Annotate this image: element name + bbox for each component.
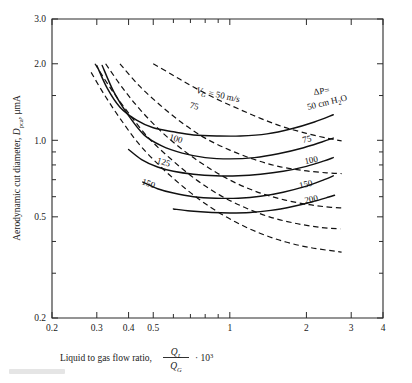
- pressure-drop-curves: [97, 65, 335, 212]
- x-axis-label-multiplier: · 103: [195, 352, 213, 364]
- x-tick-label: 0.4: [123, 323, 135, 333]
- gas-velocity-legend-title: VG = 50 m/s: [195, 85, 241, 106]
- x-axis-label-prefix: Liquid to gas flow ratio,: [60, 353, 152, 363]
- x-axis-label-denominator: QG: [170, 361, 182, 373]
- plot-frame: [52, 19, 383, 318]
- x-tick-label: 0.3: [91, 323, 103, 333]
- x-tick-label: 0.2: [46, 323, 58, 333]
- x-axis-label: Liquid to gas flow ratio, QL QG · 103: [60, 347, 213, 373]
- y-axis-label-prefix: Aerodynamic cut diameter,: [12, 138, 22, 241]
- dp-unit-tail: O: [339, 92, 348, 103]
- svg-text:Aerodynamic cut diameter, Dpca: Aerodynamic cut diameter, Dpca, μmA: [12, 95, 24, 241]
- chart-svg: 0.20.30.40.512343.02.01.00.50.2 75100125…: [0, 0, 412, 383]
- axis-ticks: [52, 19, 383, 318]
- dp-unit: 50 cm H: [306, 95, 339, 112]
- x-axis-label-numerator: QL: [171, 347, 182, 359]
- y-tick-label: 3.0: [34, 14, 46, 24]
- x-tick-label: 4: [381, 323, 386, 333]
- y-tick-label: 0.5: [34, 212, 46, 222]
- x-tick-label: 1: [227, 323, 232, 333]
- x-tick-label: 0.5: [147, 323, 159, 333]
- pressure-drop-label-100: 100: [304, 154, 320, 167]
- svg-text:50 cm H2O: 50 cm H2O: [306, 92, 349, 113]
- x-tick-label: 3: [349, 323, 354, 333]
- vg-value: = 50 m/s: [208, 88, 241, 104]
- pressure-drop-legend-title: ΔP= 50 cm H2O: [306, 85, 349, 114]
- pressure-drop-label-150: 150: [298, 178, 314, 191]
- pressure-drop-label-200: 200: [304, 193, 320, 206]
- y-axis-label: Aerodynamic cut diameter, Dpca, μmA: [12, 95, 24, 241]
- gas-velocity-label-75: 75: [189, 100, 201, 112]
- svg-text:ΔP=: ΔP=: [313, 85, 330, 97]
- y-axis-label-units: , μmA: [12, 95, 22, 119]
- scan-artifact: [9, 369, 65, 374]
- y-tick-label: 0.2: [34, 313, 46, 323]
- y-tick-label: 2.0: [34, 59, 46, 69]
- svg-text:VG = 50 m/s: VG = 50 m/s: [195, 85, 241, 106]
- y-axis-label-symbol: D: [12, 128, 22, 136]
- axis-frame: [52, 19, 383, 318]
- dp-eq: =: [324, 85, 330, 96]
- x-tick-label: 2: [304, 323, 309, 333]
- y-axis-label-subscript: pca: [17, 119, 24, 128]
- y-tick-label: 1.0: [34, 136, 46, 146]
- figure-root: 0.20.30.40.512343.02.01.00.50.2 75100125…: [0, 0, 412, 383]
